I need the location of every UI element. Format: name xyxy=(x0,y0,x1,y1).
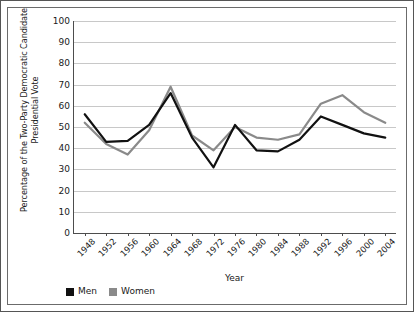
legend-entry-men: Men xyxy=(66,287,97,296)
x-axis-tick-label: 1948 xyxy=(75,237,97,259)
x-axis-tick-label: 1952 xyxy=(97,237,119,259)
y-axis-tick-label: 80 xyxy=(59,59,70,68)
x-axis-tick-mark xyxy=(342,233,343,236)
y-axis-title-line-2: Presidential Vote xyxy=(30,77,41,144)
y-axis-tick-label: 50 xyxy=(59,123,70,132)
y-axis-tick-label: 90 xyxy=(59,38,70,47)
y-axis-tick-label: 60 xyxy=(59,101,70,110)
x-axis-tick-label: 1964 xyxy=(161,237,183,259)
chart-figure-inner-border: Percentage of the Two-Party Democratic C… xyxy=(7,7,407,305)
x-axis-tick-mark xyxy=(299,233,300,236)
legend-label: Women xyxy=(121,287,155,296)
x-axis-title: Year xyxy=(73,273,396,283)
x-axis-tick-mark xyxy=(256,233,257,236)
x-axis-tick-mark xyxy=(192,233,193,236)
x-axis-tick-mark xyxy=(364,233,365,236)
x-axis-tick-mark xyxy=(106,233,107,236)
x-axis-tick-label: 1996 xyxy=(333,237,355,259)
x-axis-tick-label: 2004 xyxy=(376,237,398,259)
x-axis-tick-label: 1972 xyxy=(204,237,226,259)
x-axis-tick-mark xyxy=(278,233,279,236)
x-axis-tick-mark xyxy=(171,233,172,236)
x-axis-tick-label: 1984 xyxy=(269,237,291,259)
x-axis-tick-mark xyxy=(235,233,236,236)
x-axis-tick-label: 1980 xyxy=(247,237,269,259)
y-axis-tick-label: 20 xyxy=(59,186,70,195)
x-axis-tick-mark xyxy=(385,233,386,236)
y-axis-tick-label: 40 xyxy=(59,144,70,153)
x-axis-tick-label: 1960 xyxy=(140,237,162,259)
x-axis-tick-mark xyxy=(149,233,150,236)
x-axis-tick-label: 1968 xyxy=(183,237,205,259)
plot-region: 0102030405060708090100194819521956196019… xyxy=(73,21,396,234)
y-axis-title: Percentage of the Two-Party Democratic C… xyxy=(12,4,48,216)
y-axis-tick-label: 30 xyxy=(59,165,70,174)
legend-label: Men xyxy=(78,287,97,296)
legend-entry-women: Women xyxy=(109,287,155,296)
legend-swatch-icon xyxy=(66,288,74,296)
x-axis-tick-mark xyxy=(128,233,129,236)
series-line-men xyxy=(85,93,386,167)
x-axis-tick-label: 1988 xyxy=(290,237,312,259)
y-axis-tick-label: 100 xyxy=(53,17,70,26)
x-axis-tick-label: 1976 xyxy=(226,237,248,259)
y-axis-tick-label: 0 xyxy=(64,229,70,238)
chart-figure: Percentage of the Two-Party Democratic C… xyxy=(0,0,414,312)
x-axis-tick-label: 1992 xyxy=(312,237,334,259)
x-axis-tick-label: 2000 xyxy=(354,237,376,259)
plot-area: 0102030405060708090100194819521956196019… xyxy=(73,21,396,234)
x-axis-tick-mark xyxy=(214,233,215,236)
y-axis-tick-label: 70 xyxy=(59,80,70,89)
x-axis-tick-mark xyxy=(85,233,86,236)
chart-legend: MenWomen xyxy=(66,287,155,296)
x-axis-tick-label: 1956 xyxy=(118,237,140,259)
y-axis-title-line-1: Percentage of the Two-Party Democratic C… xyxy=(19,8,30,212)
series-line-women xyxy=(85,87,386,155)
legend-swatch-icon xyxy=(109,288,117,296)
series-lines xyxy=(74,21,396,233)
y-axis-tick-label: 10 xyxy=(59,207,70,216)
x-axis-tick-mark xyxy=(321,233,322,236)
